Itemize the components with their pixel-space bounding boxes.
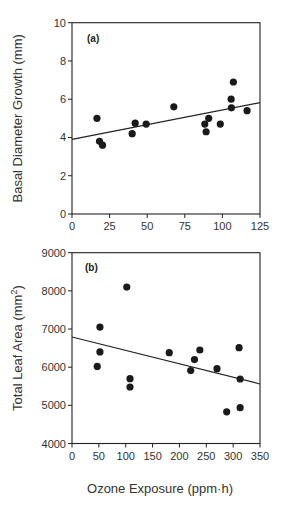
x-tick-label: 150 <box>143 450 161 462</box>
panel-b-leaf-area: 4000500060007000800090000501001502002503… <box>9 247 269 496</box>
data-point <box>126 375 133 382</box>
data-point <box>203 128 210 135</box>
y-tick-label: 9000 <box>42 247 66 259</box>
data-point <box>205 115 212 122</box>
data-point <box>213 365 220 372</box>
data-point <box>228 96 235 103</box>
data-point <box>166 349 173 356</box>
data-point <box>93 115 100 122</box>
x-axis-title: Ozone Exposure (ppm·h) <box>87 481 233 496</box>
data-point <box>237 404 244 411</box>
data-point <box>96 324 103 331</box>
data-point <box>96 348 103 355</box>
x-tick-label: 50 <box>141 220 153 232</box>
data-point <box>228 104 235 111</box>
x-tick-label: 75 <box>179 220 191 232</box>
x-tick-label: 100 <box>213 220 231 232</box>
y-tick-label: 0 <box>60 208 66 220</box>
y-tick-label: 4000 <box>42 438 66 450</box>
x-tick-label: 300 <box>224 450 242 462</box>
regression-line <box>72 337 260 384</box>
data-point <box>143 120 150 127</box>
x-tick-label: 125 <box>251 220 269 232</box>
x-tick-label: 0 <box>69 450 75 462</box>
y-axis-title: Basal Diameter Growth (mm) <box>10 34 25 202</box>
y-tick-label: 6 <box>60 93 66 105</box>
data-point <box>94 363 101 370</box>
data-point <box>99 142 106 149</box>
plot-frame <box>72 253 260 444</box>
data-point <box>191 356 198 363</box>
panel-label: (a) <box>87 33 99 44</box>
data-point <box>237 375 244 382</box>
data-point <box>132 120 139 127</box>
data-point <box>196 346 203 353</box>
x-tick-label: 200 <box>170 450 188 462</box>
x-tick-label: 350 <box>251 450 269 462</box>
y-tick-label: 8 <box>60 55 66 67</box>
data-point <box>223 408 230 415</box>
data-point <box>230 78 237 85</box>
x-tick-label: 250 <box>197 450 215 462</box>
x-tick-label: 25 <box>103 220 115 232</box>
data-point <box>123 283 130 290</box>
data-point <box>170 103 177 110</box>
x-tick-label: 0 <box>69 220 75 232</box>
y-tick-label: 10 <box>54 17 66 29</box>
x-tick-label: 50 <box>93 450 105 462</box>
panel-label: (b) <box>85 262 98 273</box>
panel-a-basal-diameter: 02468100255075100125(a)Basal Diameter Gr… <box>10 17 269 232</box>
data-point <box>217 120 224 127</box>
data-point <box>187 367 194 374</box>
data-point <box>126 383 133 390</box>
y-tick-label: 6000 <box>42 361 66 373</box>
y-tick-label: 7000 <box>42 323 66 335</box>
data-point <box>243 107 250 114</box>
y-tick-label: 4 <box>60 131 66 143</box>
y-tick-label: 5000 <box>42 399 66 411</box>
data-point <box>235 344 242 351</box>
y-tick-label: 8000 <box>42 285 66 297</box>
data-point <box>129 130 136 137</box>
y-tick-label: 2 <box>60 170 66 182</box>
y-axis-title: Total Leaf Area (mm2) <box>9 285 25 411</box>
x-tick-label: 100 <box>117 450 135 462</box>
figure: 02468100255075100125(a)Basal Diameter Gr… <box>0 0 287 516</box>
